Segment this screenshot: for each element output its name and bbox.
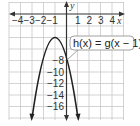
function-callout: h(x) = g(x − 1) [67, 36, 140, 60]
arrow-up-icon [64, 1, 69, 7]
coordinate-graph: y x −4 −3 −2 −1 1 2 3 4 −8 −10 −12 −14 −… [0, 0, 140, 126]
x-tick: 4 [110, 15, 116, 26]
function-label: h(x) = g(x − 1) [73, 37, 140, 49]
x-axis-label: x [116, 15, 122, 26]
x-tick: −2 [35, 15, 47, 26]
y-tick-labels: −8 −10 −12 −14 −16 [47, 55, 64, 112]
x-tick-labels: −4 −3 −2 −1 1 2 3 4 [12, 15, 116, 26]
x-tick: 2 [87, 15, 93, 26]
y-axis [64, 1, 69, 121]
y-tick: −10 [47, 67, 64, 78]
x-tick: −3 [24, 15, 36, 26]
y-tick: −12 [47, 78, 64, 89]
arrow-down-right-icon [76, 114, 81, 122]
y-tick: −16 [47, 101, 64, 112]
y-tick: −8 [53, 55, 65, 66]
x-tick: 3 [98, 15, 104, 26]
x-tick: 1 [75, 15, 81, 26]
y-axis-label: y [69, 0, 75, 11]
x-tick: −4 [12, 15, 24, 26]
x-tick: −1 [47, 15, 59, 26]
y-tick: −14 [47, 90, 64, 101]
